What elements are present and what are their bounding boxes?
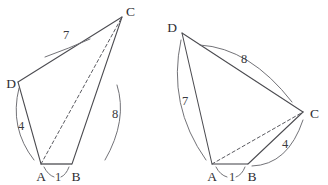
length-label-right-DC: 8: [241, 52, 247, 66]
leader-arc-left-8: [105, 85, 121, 160]
left-quadrilateral: C D A B 7 4 1 8: [6, 4, 135, 184]
vertex-label-right-B: B: [247, 169, 256, 184]
edge-left-BC: [72, 17, 122, 164]
length-label-right-AB: 1: [229, 170, 235, 184]
vertex-label-right-D: D: [167, 20, 177, 35]
leader-arc-right-1-right: [236, 167, 245, 177]
vertex-label-right-A: A: [207, 169, 217, 184]
length-label-right-BC: 4: [282, 137, 289, 151]
length-label-left-DA: 4: [18, 119, 25, 133]
vertex-label-left-B: B: [71, 169, 80, 184]
right-quadrilateral: D C A B 8 7 1 4: [167, 20, 319, 184]
length-label-left-BC: 8: [112, 107, 118, 121]
vertex-label-left-C: C: [126, 4, 135, 19]
geometry-figures: C D A B 7 4 1 8: [0, 0, 328, 185]
length-label-left-DC: 7: [63, 28, 69, 42]
length-label-right-DA: 7: [182, 94, 188, 108]
diagonal-left-AC: [41, 17, 122, 164]
diagram-canvas: C D A B 7 4 1 8: [0, 0, 328, 185]
diagonal-right-AC: [212, 112, 303, 164]
edge-left-DC: [18, 17, 122, 82]
vertex-label-left-A: A: [36, 169, 46, 184]
vertex-label-left-D: D: [6, 76, 16, 91]
length-label-left-AB: 1: [55, 170, 61, 184]
leader-arc-right-1-left: [216, 167, 227, 177]
leader-arc-left-1-right: [61, 167, 69, 177]
vertex-label-right-C: C: [310, 106, 319, 121]
